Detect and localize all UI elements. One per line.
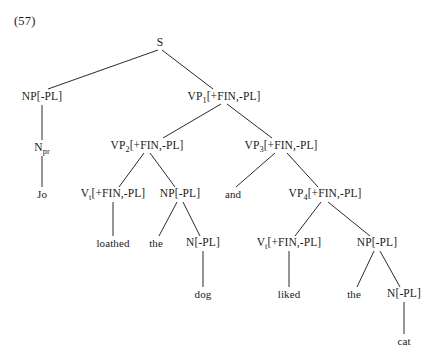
branch-VP1-to-VP2 bbox=[163, 104, 221, 138]
branch-VP2-to-NP2 bbox=[150, 153, 175, 187]
branch-VP3-to-VP4 bbox=[287, 153, 318, 187]
tree-node-vt2: Vt[+FIN,-PL] bbox=[257, 237, 322, 249]
tree-branch-lines bbox=[0, 0, 444, 362]
tree-node-vp1: VP1[+FIN,-PL] bbox=[188, 91, 261, 103]
tree-node-np2: NP[-PL] bbox=[160, 188, 200, 200]
branch-NP3-to-the2 bbox=[357, 251, 374, 287]
tree-leaf-cat: cat bbox=[397, 336, 410, 347]
tree-node-vp3: VP3[+FIN,-PL] bbox=[245, 140, 318, 152]
tree-node-n1: N[-PL] bbox=[186, 237, 220, 249]
tree-node-n2: N[-PL] bbox=[387, 288, 421, 300]
tree-leaf-and: and bbox=[225, 189, 241, 200]
syntax-tree-figure: (57) SNP[-PL]VP1[+FIN,-PL]NprVP2[+FIN,-P… bbox=[0, 0, 444, 362]
tree-leaf-liked: liked bbox=[278, 289, 301, 300]
tree-leaf-loathed: loathed bbox=[96, 238, 129, 249]
tree-node-s: S bbox=[157, 37, 164, 49]
tree-node-vt1: Vt[+FIN,-PL] bbox=[81, 188, 146, 200]
tree-node-vp4: VP4[+FIN,-PL] bbox=[289, 188, 362, 200]
branch-NP2-to-the1 bbox=[159, 202, 177, 236]
branch-S-to-VP1 bbox=[162, 50, 213, 89]
branch-VP2-to-Vt1 bbox=[119, 153, 144, 187]
tree-leaf-the2: the bbox=[347, 289, 361, 300]
branch-VP3-to-and bbox=[236, 153, 275, 187]
branch-NP3-to-N2 bbox=[380, 251, 400, 287]
branch-VP1-to-VP3 bbox=[227, 104, 272, 138]
tree-leaf-jo: Jo bbox=[37, 189, 47, 200]
branch-VP4-to-NP3 bbox=[328, 202, 370, 236]
tree-leaf-dog: dog bbox=[195, 289, 212, 300]
branch-NP2-to-N1 bbox=[183, 202, 200, 236]
tree-node-vp2: VP2[+FIN,-PL] bbox=[111, 140, 184, 152]
tree-node-np3: NP[-PL] bbox=[357, 237, 397, 249]
tree-leaf-the1: the bbox=[149, 238, 163, 249]
branch-S-to-NP1 bbox=[48, 50, 158, 89]
tree-node-npr: Npr bbox=[34, 142, 50, 154]
branch-VP4-to-Vt2 bbox=[295, 202, 321, 236]
tree-node-np1: NP[-PL] bbox=[22, 91, 62, 103]
